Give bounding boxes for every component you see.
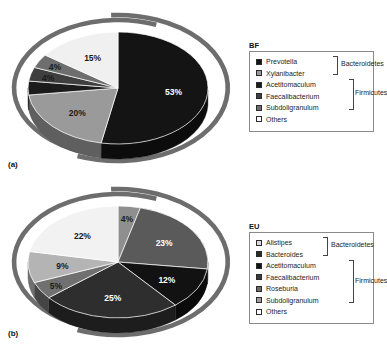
legend-item[interactable]: Faecalibacterium <box>256 91 319 103</box>
legend-swatch-icon <box>256 82 262 88</box>
group-label-bacteroidetes-b: Bacteroidetes <box>331 241 374 248</box>
legend-item-label: Faecalibacterium <box>266 91 319 103</box>
legend-item[interactable]: Faecalibacterium <box>256 272 319 284</box>
legend-item-label: Acetitomaculum <box>266 260 316 272</box>
pie-chart-a-svg <box>0 0 242 179</box>
legend-item-label: Others <box>266 114 287 126</box>
group-label-firmicutes-b: Firmicutes <box>355 277 387 284</box>
legend-item-label: Prevotella <box>266 56 297 68</box>
legend-item[interactable]: Prevotella <box>256 56 319 68</box>
pie-chart-a: 53%20%4%4%4%15% <box>0 0 242 179</box>
legend-item[interactable]: Subdoligranulum <box>256 102 319 114</box>
legend-swatch-icon <box>256 105 262 111</box>
legend-swatch-icon <box>256 70 262 76</box>
legend-title-bf: BF <box>249 41 259 50</box>
panel-a: 53%20%4%4%4%15% (a) BF PrevotellaXylanib… <box>0 0 380 179</box>
legend-item-label: Xylanibacter <box>266 68 305 80</box>
legend-box-a: PrevotellaXylanibacterAcetitomaculumFaec… <box>249 51 374 132</box>
legend-item-label: Subdoligranulum <box>266 295 319 307</box>
legend-title-eu: EU <box>249 222 259 231</box>
panel-label-a: (a) <box>8 160 18 169</box>
panel-label-b: (b) <box>8 329 18 338</box>
legend-swatch-icon <box>256 251 262 257</box>
legend-item-label: Faecalibacterium <box>266 272 319 284</box>
legend-item-label: Subdoligranulum <box>266 102 319 114</box>
legend-item[interactable]: Bacteroides <box>256 249 319 261</box>
legend-item[interactable]: Alistipes <box>256 237 319 249</box>
legend-swatch-icon <box>256 286 262 292</box>
legend-item-label: Others <box>266 306 287 318</box>
bracket-firmicutes-b <box>348 260 354 303</box>
legend-swatch-icon <box>256 309 262 315</box>
group-label-bacteroidetes-a: Bacteroidetes <box>341 60 384 67</box>
legend-swatch-icon <box>256 240 262 246</box>
legend-item[interactable]: Others <box>256 306 319 318</box>
legend-item[interactable]: Others <box>256 114 319 126</box>
legend-item-label: Bacteroides <box>266 249 303 261</box>
legend-box-b: AlistipesBacteroidesAcetitomaculumFaecal… <box>249 232 374 324</box>
pie-slices <box>28 206 208 318</box>
pie-chart-b-svg <box>0 180 242 359</box>
legend-swatch-icon <box>256 274 262 280</box>
bracket-firmicutes-a <box>348 79 354 110</box>
group-label-firmicutes-a: Firmicutes <box>355 89 387 96</box>
bracket-bacteroidetes-a <box>332 56 338 75</box>
legend-swatch-icon <box>256 116 262 122</box>
legend-items-a: PrevotellaXylanibacterAcetitomaculumFaec… <box>256 56 319 125</box>
pie-slices <box>28 32 208 144</box>
legend-swatch-icon <box>256 59 262 65</box>
legend-item[interactable]: Acetitomaculum <box>256 79 319 91</box>
pie-chart-b: 4%23%12%25%5%9%22% <box>0 180 242 359</box>
legend-items-b: AlistipesBacteroidesAcetitomaculumFaecal… <box>256 237 319 318</box>
bracket-bacteroidetes-b <box>322 237 328 256</box>
legend-item-label: Alistipes <box>266 237 292 249</box>
legend-item[interactable]: Subdoligranulum <box>256 295 319 307</box>
legend-swatch-icon <box>256 263 262 269</box>
legend-swatch-icon <box>256 297 262 303</box>
legend-swatch-icon <box>256 93 262 99</box>
legend-item-label: Acetitomaculum <box>266 79 316 91</box>
legend-item[interactable]: Roseburia <box>256 283 319 295</box>
legend-item[interactable]: Xylanibacter <box>256 68 319 80</box>
legend-item-label: Roseburia <box>266 283 298 295</box>
legend-item[interactable]: Acetitomaculum <box>256 260 319 272</box>
